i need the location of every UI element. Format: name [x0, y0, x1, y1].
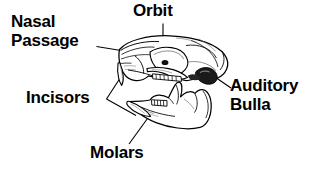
leader-line-incisors-upper — [107, 78, 121, 100]
cranium — [118, 36, 228, 86]
anatomy-figure: Nasal Passage Orbit Auditory Bulla Incis… — [0, 0, 313, 170]
label-auditory-bulla: Auditory Bulla — [230, 76, 298, 114]
label-nasal-passage: Nasal Passage — [11, 12, 79, 50]
leader-line-nasal-passage — [97, 47, 122, 51]
lower-molar-row — [152, 100, 168, 106]
label-incisors: Incisors — [26, 88, 90, 107]
label-molars: Molars — [90, 143, 144, 162]
label-orbit: Orbit — [133, 1, 173, 20]
auditory-bulla — [195, 68, 217, 85]
orbit-foramen — [162, 60, 169, 65]
lower-molar-strip — [152, 100, 168, 106]
mandible — [127, 82, 211, 129]
mandible-outline — [129, 82, 211, 129]
